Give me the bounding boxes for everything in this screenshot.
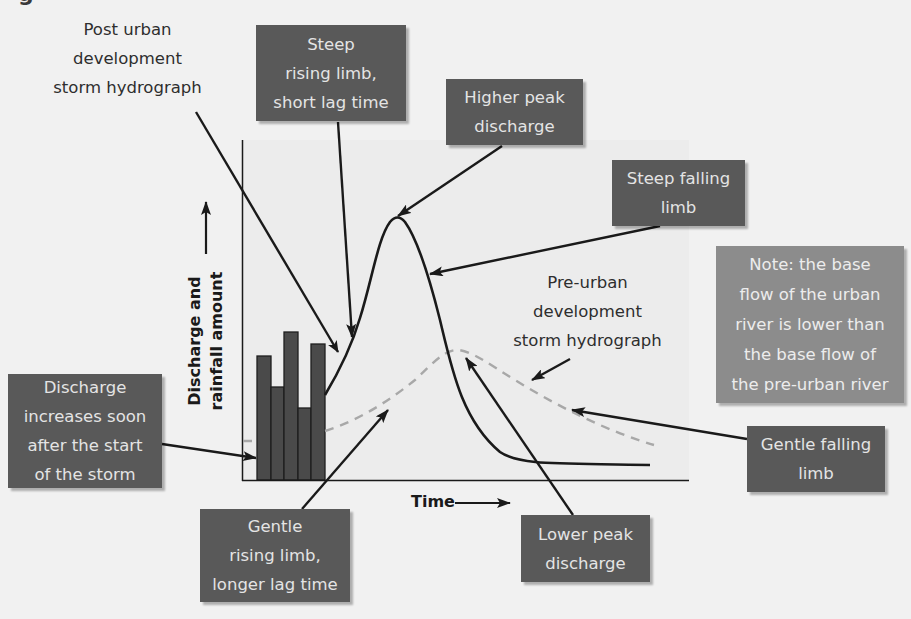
callout-discharge-increases: Discharge increases soon after the start…: [8, 374, 162, 488]
callout-steep-rising-limb: Steep rising limb, short lag time: [256, 25, 406, 121]
callout-steep-falling-limb: Steep falling limb: [612, 160, 745, 226]
x-axis-label: Time: [411, 492, 455, 511]
callout-lower-peak-discharge: Lower peak discharge: [521, 515, 650, 582]
post-urban-label: Post urban development storm hydrograph: [45, 15, 210, 102]
callout-gentle-rising-limb: Gentle rising limb, longer lag time: [200, 509, 350, 602]
pre-urban-label: Pre-urban development storm hydrograph: [505, 268, 670, 355]
callout-higher-peak-discharge: Higher peak discharge: [446, 79, 583, 145]
y-axis-label: Discharge and rainfall amount: [184, 266, 228, 416]
urban-hydrograph-diagram: g Post urban development storm hydrograp…: [0, 0, 911, 619]
callout-gentle-falling-limb: Gentle falling limb: [747, 426, 885, 492]
callout-base-flow-note: Note: the base flow of the urban river i…: [716, 246, 904, 403]
title-fragment: g: [18, 0, 34, 8]
